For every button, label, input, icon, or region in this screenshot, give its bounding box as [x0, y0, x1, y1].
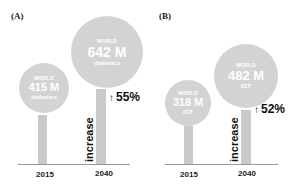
- percent-change-b: ↑52%: [254, 102, 285, 116]
- bubble-b-2040: WORLD 482 M IGT: [214, 44, 278, 108]
- bar-a-2040: [96, 89, 106, 164]
- bubble-bottom-label: diabetics: [31, 94, 57, 100]
- bubble-value: 415 M: [29, 82, 60, 93]
- bubble-top-label: WORLD: [97, 39, 117, 44]
- arrow-up-icon: ↑: [254, 104, 259, 115]
- percent-value: 52%: [261, 102, 285, 116]
- bubble-a-2015: WORLD 415 M diabetics: [19, 63, 69, 113]
- bubble-b-2015: WORLD 318 M IGT: [165, 80, 211, 126]
- x-tick-2015-a: 2015: [36, 170, 54, 179]
- bar-b-2015: [184, 126, 193, 164]
- x-tick-2040-a: 2040: [95, 169, 113, 178]
- bubble-a-2040: WORLD 642 M diabetics: [71, 16, 143, 88]
- x-tick-2015-b: 2015: [180, 170, 198, 179]
- increase-label-a: increase: [83, 117, 95, 162]
- percent-value: 55%: [116, 90, 140, 104]
- bubble-bottom-label: IGT: [183, 109, 193, 115]
- bubble-bottom-label: IGT: [241, 83, 251, 89]
- percent-change-a: ↑55%: [109, 90, 140, 104]
- panel-label-a: (A): [11, 11, 24, 21]
- bubble-value: 318 M: [173, 97, 204, 108]
- bubble-bottom-label: diabetics: [94, 60, 120, 66]
- x-tick-2040-b: 2040: [238, 169, 256, 178]
- bubble-value: 482 M: [228, 69, 264, 82]
- bar-b-2040: [241, 110, 251, 164]
- increase-label-b: increase: [228, 117, 240, 162]
- x-axis-a: [18, 164, 130, 165]
- arrow-up-icon: ↑: [109, 92, 114, 103]
- bar-a-2015: [38, 115, 47, 164]
- bubble-value: 642 M: [88, 45, 127, 59]
- x-axis-b: [165, 164, 278, 165]
- panel-label-b: (B): [159, 11, 171, 21]
